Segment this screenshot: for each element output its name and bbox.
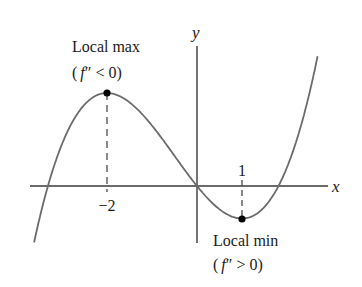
local-max-label: Local max — [72, 38, 140, 55]
local-min-condition: (f″ > 0) — [213, 256, 263, 274]
x-axis-label: x — [331, 177, 340, 196]
local-max-condition: (f″ < 0) — [72, 64, 122, 82]
function-curve — [34, 56, 318, 242]
y-axis-label: y — [190, 23, 200, 42]
local-max-point — [103, 89, 110, 96]
tick-label-1: 1 — [238, 162, 246, 179]
local-min-label: Local min — [213, 232, 278, 249]
local-min-point — [238, 215, 245, 222]
diagram-canvas: y x −2 1 Local max (f″ < 0) Local min (f… — [0, 0, 362, 287]
tick-label-neg2: −2 — [98, 197, 115, 214]
